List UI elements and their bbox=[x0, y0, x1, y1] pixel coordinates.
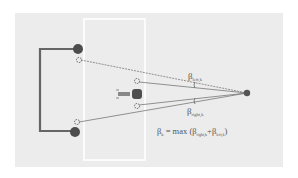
diagram-panel bbox=[15, 13, 283, 167]
vehicle-tail-icon-2 bbox=[116, 97, 119, 99]
goal-post-top-icon bbox=[73, 44, 83, 54]
vehicle-arrow-icon bbox=[118, 92, 130, 96]
goal-post-bottom-icon bbox=[70, 127, 80, 137]
angle-diagram: βleft,k βright,k βk = max (βright,k+βlef… bbox=[0, 0, 298, 178]
vehicle-tail-icon bbox=[116, 89, 119, 91]
vehicle-body-icon bbox=[132, 89, 142, 99]
observer-point-icon bbox=[244, 90, 250, 96]
